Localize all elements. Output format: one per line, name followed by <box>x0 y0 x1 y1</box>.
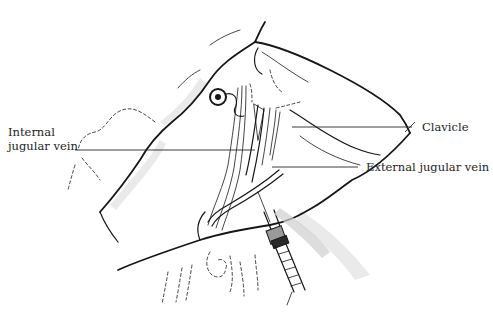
internal-jugular-label: Internal jugular vein <box>8 125 78 153</box>
internal-jugular-label-line1: Internal <box>8 125 78 139</box>
anatomy-illustration: Internal jugular vein Clavicle External … <box>0 0 493 313</box>
internal-jugular-label-line2: jugular vein <box>8 139 78 153</box>
external-jugular-label: External jugular vein <box>366 160 489 174</box>
neck-anatomy-drawing <box>0 0 493 313</box>
clavicle-label: Clavicle <box>422 120 468 134</box>
